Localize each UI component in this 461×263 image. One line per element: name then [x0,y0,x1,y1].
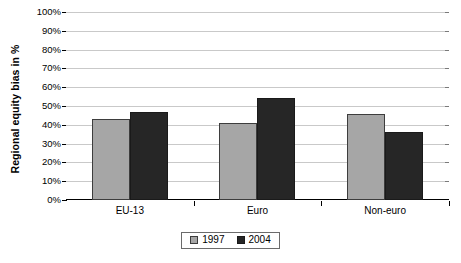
y-axis-tick [62,144,66,145]
y-axis-tick [62,162,66,163]
x-axis-tick-label: Euro [247,205,268,216]
y-axis-tick-label: 70% [42,64,61,74]
bar-group [194,12,322,200]
x-axis-tick-label: Non-euro [364,205,406,216]
y-axis-tick [62,12,66,13]
y-axis-tick [62,125,66,126]
y-axis-tick [62,200,66,201]
y-axis-tick-label: 50% [42,101,61,111]
y-axis-tick [62,181,66,182]
bar-eu-13-2004[interactable] [130,112,168,200]
y-axis-tick-label: 80% [42,45,61,55]
y-axis-title-text: Regional equity bias in % [9,44,21,173]
x-axis-tick-labels: EU-13EuroNon-euro [66,205,449,221]
y-axis-tick-label: 90% [42,26,61,36]
legend-item-1997[interactable]: 1997 [190,235,224,245]
bar-euro-1997[interactable] [219,123,257,200]
y-axis-title: Regional equity bias in % [4,0,26,218]
category-separator-tick [449,201,450,206]
bar-non-euro-2004[interactable] [385,132,423,200]
legend-box: 19972004 [181,232,280,249]
legend-swatch-icon [237,236,245,244]
y-axis-tick-label: 40% [42,120,61,130]
y-axis-tick-label: 0% [47,195,61,205]
plot-area [66,12,449,200]
y-axis-tick-label: 20% [42,158,61,168]
legend-item-2004[interactable]: 2004 [237,235,271,245]
y-axis-tick [62,31,66,32]
y-axis-tick [62,106,66,107]
y-axis-tick-labels: 0%10%20%30%40%50%60%70%80%90%100% [26,12,64,200]
y-axis-tick-label: 100% [37,7,61,17]
legend-swatch-icon [190,236,198,244]
bar-group [66,12,194,200]
bar-eu-13-1997[interactable] [92,119,130,200]
y-axis-tick [62,68,66,69]
y-axis-tick-label: 60% [42,82,61,92]
bar-non-euro-1997[interactable] [347,114,385,200]
bar-chart: Regional equity bias in % 0%10%20%30%40%… [0,0,461,263]
bars-layer [66,12,449,200]
y-axis-tick [62,50,66,51]
y-axis-tick-label: 10% [42,176,61,186]
x-axis-tick-label: EU-13 [116,205,144,216]
y-axis-tick-label: 30% [42,139,61,149]
legend-label: 2004 [249,235,271,245]
legend-label: 1997 [202,235,224,245]
bar-group [321,12,449,200]
chart-legend: 19972004 [0,232,461,249]
y-axis-tick [62,87,66,88]
bar-euro-2004[interactable] [257,98,295,200]
